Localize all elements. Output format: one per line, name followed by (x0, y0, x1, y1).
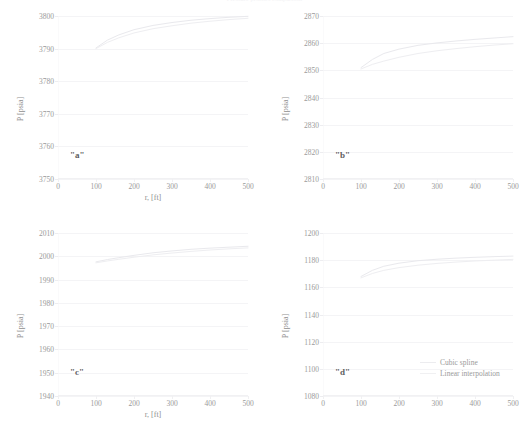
x-axis-tick-mark (134, 396, 135, 399)
gridline-horizontal (58, 179, 248, 180)
y-axis-tick-label: 3770 (39, 109, 54, 118)
x-axis-tick-mark (248, 396, 249, 399)
panel-b-plot-area: 2810282028302840285028602870010020030040… (323, 16, 513, 179)
x-axis-tick-mark (210, 396, 211, 399)
y-axis-tick-label: 1160 (304, 283, 319, 292)
legend-swatch-linear-interpolation-icon (420, 373, 436, 374)
y-axis-tick-label: 2850 (304, 66, 319, 75)
gridline-horizontal (323, 179, 513, 180)
y-axis-tick-label: 2810 (304, 175, 319, 184)
panel-a: P [psia] 3750376037703780379038000100200… (0, 0, 264, 217)
x-axis-tick-label: 0 (56, 399, 60, 408)
y-axis-tick-label: 3780 (39, 77, 54, 86)
panel-a-tag: "a" (70, 150, 85, 160)
y-axis-tick-label: 1080 (304, 392, 319, 401)
x-axis-tick-mark (172, 179, 173, 182)
x-axis-tick-label: 500 (507, 399, 518, 408)
series-layer (58, 16, 248, 179)
y-axis-tick-label: 2860 (304, 39, 319, 48)
x-axis-tick-label: 300 (431, 399, 442, 408)
x-axis-tick-label: 400 (469, 399, 480, 408)
x-axis-tick-mark (134, 179, 135, 182)
panel-b-ylabel: P [psia] (281, 96, 290, 120)
y-axis-tick-label: 3800 (39, 12, 54, 21)
panel-c: P [psia] 1940195019601970198019902000201… (0, 217, 264, 434)
legend-item-linear-interpolation: Linear interpolation (420, 368, 500, 379)
panel-c-tag: "c" (70, 367, 84, 377)
panel-c-xlabel: r, [ft] (58, 410, 248, 419)
x-axis-tick-mark (323, 179, 324, 182)
y-axis-tick-label: 1980 (39, 298, 54, 307)
x-axis-tick-label: 100 (355, 399, 366, 408)
x-axis-tick-label: 200 (128, 399, 139, 408)
y-axis-tick-label: 3750 (39, 175, 54, 184)
x-axis-tick-label: 100 (90, 182, 101, 191)
panel-a-ylabel: P [psia] (16, 96, 25, 120)
x-axis-tick-label: 100 (355, 182, 366, 191)
y-axis-tick-label: 1100 (304, 364, 319, 373)
legend: Cubic spline Linear interpolation (420, 357, 500, 379)
x-axis-tick-label: 500 (242, 182, 253, 191)
series-line (361, 256, 513, 276)
x-axis-tick-label: 300 (431, 182, 442, 191)
y-axis-tick-label: 1960 (39, 345, 54, 354)
x-axis-tick-mark (475, 396, 476, 399)
y-axis-tick-label: 3790 (39, 44, 54, 53)
x-axis-tick-mark (361, 396, 362, 399)
x-axis-tick-mark (248, 179, 249, 182)
x-axis-tick-mark (361, 179, 362, 182)
series-line (361, 37, 513, 68)
figure-root: Pressure profiles comparison P [psia] 37… (0, 0, 529, 434)
panel-b-tag: "b" (335, 150, 350, 160)
x-axis-tick-mark (513, 396, 514, 399)
x-axis-tick-label: 500 (507, 182, 518, 191)
x-axis-tick-label: 200 (393, 399, 404, 408)
y-axis-tick-label: 2870 (304, 12, 319, 21)
gridline-horizontal (323, 396, 513, 397)
y-axis-tick-label: 1950 (39, 368, 54, 377)
panel-d-ylabel: P [psia] (281, 313, 290, 337)
x-axis-tick-mark (399, 179, 400, 182)
x-axis-tick-mark (172, 396, 173, 399)
x-axis-tick-label: 300 (166, 399, 177, 408)
series-line (361, 259, 513, 277)
y-axis-tick-label: 2010 (39, 229, 54, 238)
x-axis-tick-mark (437, 179, 438, 182)
x-axis-tick-label: 100 (90, 399, 101, 408)
y-axis-tick-label: 2840 (304, 93, 319, 102)
x-axis-tick-mark (513, 179, 514, 182)
x-axis-tick-label: 0 (321, 182, 325, 191)
y-axis-tick-label: 1140 (304, 310, 319, 319)
panel-b: P [psia] 2810282028302840285028602870010… (265, 0, 529, 217)
x-axis-tick-label: 300 (166, 182, 177, 191)
panel-a-xlabel: r, [ft] (58, 193, 248, 202)
y-axis-tick-label: 1940 (39, 392, 54, 401)
x-axis-tick-mark (475, 179, 476, 182)
legend-label-cubic-spline: Cubic spline (440, 357, 478, 368)
y-axis-tick-label: 2830 (304, 120, 319, 129)
x-axis-tick-mark (58, 179, 59, 182)
series-line (361, 44, 513, 69)
panel-a-plot-area: 3750376037703780379038000100200300400500 (58, 16, 248, 179)
panel-d-tag: "d" (335, 367, 350, 377)
y-axis-tick-label: 2820 (304, 147, 319, 156)
x-axis-tick-label: 400 (469, 182, 480, 191)
x-axis-tick-mark (96, 179, 97, 182)
y-axis-tick-label: 2000 (39, 252, 54, 261)
x-axis-tick-mark (437, 396, 438, 399)
x-axis-tick-label: 200 (393, 182, 404, 191)
x-axis-tick-mark (210, 179, 211, 182)
y-axis-tick-label: 1120 (304, 337, 319, 346)
series-line (96, 16, 248, 48)
x-axis-tick-mark (58, 396, 59, 399)
legend-label-linear-interpolation: Linear interpolation (440, 368, 500, 379)
x-axis-tick-mark (96, 396, 97, 399)
panel-c-plot-area: 1940195019601970198019902000201001002003… (58, 233, 248, 396)
y-axis-tick-label: 3760 (39, 142, 54, 151)
panel-d: P [psia] - - - 1080110011201140116011801… (265, 217, 529, 434)
x-axis-tick-label: 400 (204, 182, 215, 191)
legend-swatch-cubic-spline-icon (420, 362, 436, 363)
x-axis-tick-mark (399, 396, 400, 399)
series-layer (323, 16, 513, 179)
y-axis-tick-label: 1970 (39, 322, 54, 331)
